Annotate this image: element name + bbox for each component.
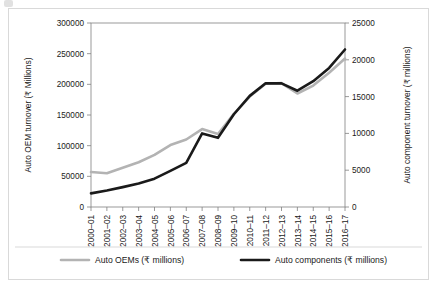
series-line-2 (91, 50, 345, 194)
y2-axis-tick-label: 20000 (352, 56, 375, 65)
y2-axis-tick-label: 25000 (352, 19, 375, 28)
y-axis-tick-label: 200000 (57, 80, 85, 89)
y2-axis-tick-label: 5000 (352, 166, 371, 175)
page-artifact (4, 0, 13, 7)
y-axis-tick-label: 300000 (57, 19, 85, 28)
chart-frame: 0500001000001500002000002500003000000500… (8, 8, 429, 280)
y-axis-tick-label: 0 (79, 203, 84, 212)
x-axis-tick-label: 2002–03 (119, 215, 128, 247)
x-axis-tick-label: 2000–01 (87, 215, 96, 247)
x-axis-tick-label: 2011–12 (262, 215, 271, 247)
figure-container: 0500001000001500002000002500003000000500… (0, 0, 437, 296)
y-axis-tick-label: 250000 (57, 50, 85, 59)
x-axis-tick-label: 2013–14 (294, 215, 303, 247)
x-axis-tick-label: 2003–04 (135, 215, 144, 247)
x-axis-tick-label: 2015–16 (325, 215, 334, 247)
x-axis-tick-label: 2008–09 (214, 215, 223, 247)
y2-axis-tick-label: 10000 (352, 129, 375, 138)
x-axis-tick-label: 2007–08 (198, 215, 207, 247)
x-axis-tick-label: 2009–10 (230, 215, 239, 247)
x-axis-tick-label: 2016–17 (341, 215, 350, 247)
legend-label-2: Auto components (₹ millions) (275, 255, 387, 265)
plot-area-border (91, 23, 345, 207)
x-axis-tick-label: 2014–15 (309, 215, 318, 247)
y2-axis-title: Auto component turnover (₹ millions) (402, 46, 412, 183)
y-axis-tick-label: 50000 (61, 172, 84, 181)
x-axis-tick-label: 2004–05 (151, 215, 160, 247)
y-axis-tick-label: 150000 (57, 111, 85, 120)
x-axis-tick-label: 2012–13 (278, 215, 287, 247)
y2-axis-tick-label: 0 (352, 203, 357, 212)
y-axis-title: Auto OEM turnover (₹ Millions) (23, 57, 33, 172)
line-chart: 0500001000001500002000002500003000000500… (9, 9, 428, 279)
series-line-1 (91, 59, 345, 174)
x-axis-tick-label: 2001–02 (103, 215, 112, 247)
y2-axis-tick-label: 15000 (352, 93, 375, 102)
x-axis-tick-label: 2005–06 (167, 215, 176, 247)
legend-label-1: Auto OEMs (₹ millions) (95, 255, 184, 265)
y-axis-tick-label: 100000 (57, 142, 85, 151)
x-axis-tick-label: 2010–11 (246, 215, 255, 247)
x-axis-tick-label: 2006–07 (182, 215, 191, 247)
